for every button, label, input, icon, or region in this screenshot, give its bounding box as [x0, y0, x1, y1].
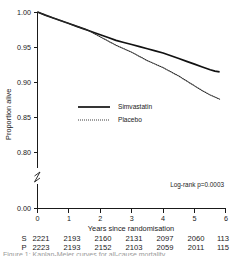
- curve-placebo: [38, 12, 220, 99]
- x-tick-label-4: 4: [161, 214, 165, 223]
- x-tick-label-5: 5: [193, 214, 197, 223]
- risk-row-group-s: S: [21, 234, 26, 243]
- x-tick-label-0: 0: [36, 214, 40, 223]
- risk-cell: 2193: [64, 234, 81, 243]
- numbers-at-risk-table: S 2221 2193 2160 2131 2097 2060 113 P 22…: [21, 234, 229, 252]
- legend-label-placebo: Placebo: [118, 116, 142, 123]
- chart-legend: Simvastatin Placebo: [78, 103, 152, 123]
- table-row: S 2221 2193 2160 2131 2097 2060 113: [21, 234, 229, 243]
- y-tick-label-2: 0.95: [17, 43, 31, 52]
- kaplan-meier-plot: 1.00 0.95 0.90 0.85 0.80 0.00 Proportion…: [0, 0, 233, 258]
- y-axis-break-icon: [35, 172, 41, 182]
- y-tick-label-5: 0.80: [17, 148, 31, 157]
- x-tick-label-2: 2: [98, 214, 102, 223]
- y-axis-title: Proportion alive: [4, 89, 13, 140]
- x-tick-label-1: 1: [67, 214, 71, 223]
- y-tick-label-6: 0.00: [17, 204, 31, 213]
- y-tick-label-3: 0.90: [17, 78, 31, 87]
- risk-cell: 2160: [95, 234, 112, 243]
- figure-caption: Figure 1: Kaplan-Meier curves for all-ca…: [3, 251, 230, 256]
- y-tick-label-4: 0.85: [17, 113, 31, 122]
- y-tick-label-1: 1.00: [17, 8, 31, 17]
- survival-chart-figure: 1.00 0.95 0.90 0.85 0.80 0.00 Proportion…: [0, 0, 233, 258]
- risk-cell: 2060: [188, 234, 205, 243]
- legend-label-simvastatin: Simvastatin: [118, 103, 152, 110]
- x-tick-label-3: 3: [130, 214, 134, 223]
- y-axis-ticks: [34, 12, 38, 209]
- risk-cell: 2221: [33, 234, 50, 243]
- x-axis-title: Years since randomisation: [88, 224, 174, 233]
- curve-simvastatin: [38, 12, 220, 72]
- logrank-annotation: Log-rank p=0.0003: [170, 181, 224, 189]
- x-tick-label-6: 6: [224, 214, 228, 223]
- x-axis-ticks: [38, 209, 226, 214]
- risk-cell: 2131: [126, 234, 143, 243]
- risk-cell: 113: [217, 234, 229, 243]
- risk-cell: 2097: [157, 234, 174, 243]
